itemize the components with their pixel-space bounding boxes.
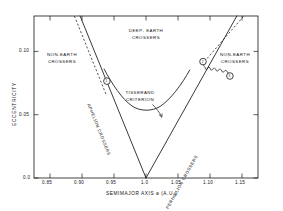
marker-2-label: 2 (202, 60, 204, 64)
y-axis-ticks-right (254, 51, 259, 178)
y-tick-label-0: 0.0 (23, 175, 30, 180)
x-tick-label-1: 0.90 (74, 180, 84, 185)
marker-3-label: 3 (229, 74, 231, 78)
marker-1-label: 1 (106, 79, 108, 83)
y-tick-label-1: 0.05 (19, 112, 29, 117)
x-tick-label-2: 0.95 (106, 180, 116, 185)
y-tick-label-2: 0.10 (19, 48, 29, 53)
region-label-non-earth-crossers-left-line2: CROSSERS (39, 59, 85, 65)
region-label-deep-earth-crossers-line1: DEEP- EARTH (122, 28, 170, 34)
y-axis-ticks (34, 51, 39, 178)
x-axis-title: SEMIMAJOR AXIS a (A.U.) (106, 191, 177, 196)
x-axis-ticks-top (50, 16, 242, 21)
y-axis-title: ECCENTRICITY (12, 82, 17, 126)
x-tick-label-0: 0.85 (42, 180, 52, 185)
region-label-deep-earth-crossers-line2: CROSSERS (122, 35, 170, 41)
annotation-tisserand-line2: CRITERION (117, 97, 163, 103)
region-label-non-earth-crossers-left-line1: NON-EARTH (39, 52, 85, 58)
region-label-non-earth-crossers-right-line1: NON-EARTH (212, 52, 258, 58)
x-tick-label-5: 1.10 (203, 180, 213, 185)
region-label-non-earth-crossers-right-line2: CROSSERS (212, 59, 258, 65)
x-tick-label-3: 1.0 (141, 180, 148, 185)
figure-canvas: 0.85 0.90 0.95 1.0 1.05 1.10 1.15 0.0 0.… (0, 0, 283, 211)
annotation-tisserand-line1: TISSERAND (117, 90, 163, 96)
x-tick-label-6: 1.15 (235, 180, 245, 185)
